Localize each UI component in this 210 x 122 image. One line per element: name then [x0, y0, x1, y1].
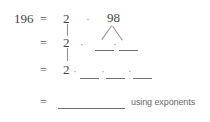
- multiply-dot-1-row-2: ·: [80, 39, 84, 50]
- using-exponents-label: using exponents: [131, 98, 195, 107]
- equals-sign-row-2: =: [40, 37, 47, 49]
- factor-2-row-2: 2: [63, 36, 70, 49]
- prime-factorization-worksheet: 196 = 2 · 98 = 2 · · = 2 · · · = using e…: [0, 0, 210, 122]
- answer-blank-exponent-form[interactable]: [58, 108, 125, 109]
- equals-sign-row-1: =: [40, 13, 47, 25]
- multiply-dot-3-row-3: ·: [128, 66, 132, 77]
- answer-blank-row-3-3[interactable]: [133, 78, 152, 79]
- answer-blank-row-3-2[interactable]: [106, 78, 125, 79]
- factor-98-row-1: 98: [107, 11, 120, 24]
- factor-2-row-3: 2: [63, 63, 70, 76]
- multiply-dot-row-1: ·: [86, 14, 90, 25]
- equals-sign-row-3: =: [40, 64, 47, 76]
- answer-blank-row-3-1[interactable]: [80, 78, 99, 79]
- start-number: 196: [14, 12, 34, 25]
- answer-blank-row-2-1[interactable]: [95, 50, 114, 51]
- multiply-dot-1-row-3: ·: [73, 66, 77, 77]
- multiply-dot-2-row-3: ·: [101, 66, 105, 77]
- multiply-dot-2-row-2: ·: [113, 39, 117, 50]
- tree-branch-left-icon: [101, 25, 112, 39]
- equals-sign-row-4: =: [40, 96, 47, 108]
- answer-blank-row-2-2[interactable]: [119, 50, 138, 51]
